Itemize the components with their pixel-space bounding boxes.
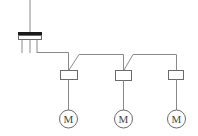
contactor-2 xyxy=(116,71,132,81)
busbar-black xyxy=(18,32,42,35)
motor-2: M xyxy=(115,110,133,128)
contactor-3 xyxy=(169,71,184,80)
motor-control-diagram: M M M xyxy=(0,0,198,136)
motor-1: M xyxy=(60,110,78,128)
wire-to-contactor-1 xyxy=(37,53,69,71)
wire-to-contactor-3 xyxy=(124,55,177,71)
motor-3: M xyxy=(168,110,186,128)
contactor-1 xyxy=(61,71,78,80)
motor-label: M xyxy=(172,113,182,125)
motor-label: M xyxy=(119,113,129,125)
supply-switch xyxy=(18,32,42,53)
busbar-base xyxy=(19,36,42,40)
wire-to-contactor-2 xyxy=(69,55,124,71)
motor-label: M xyxy=(64,113,74,125)
